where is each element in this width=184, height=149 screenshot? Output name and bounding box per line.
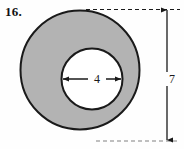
inner-diameter-label: 4	[88, 72, 106, 86]
geometry-figure: 16. 4 7	[0, 0, 184, 149]
outer-diameter-label: 7	[163, 72, 181, 86]
problem-number: 16.	[5, 5, 22, 18]
